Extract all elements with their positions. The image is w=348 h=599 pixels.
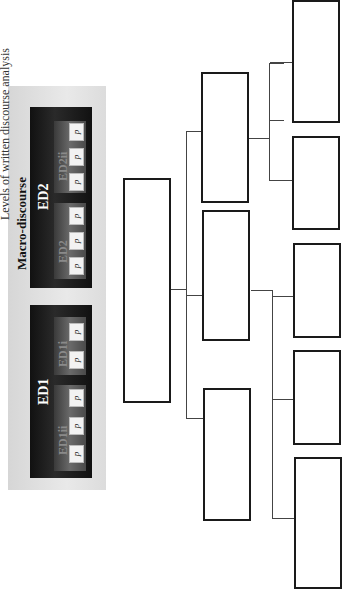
- tree-node-l2-e: [294, 457, 342, 589]
- connector-l1mid-spine-lower: [272, 459, 273, 519]
- paragraph-p: p: [69, 351, 84, 369]
- paragraph-p: p: [69, 323, 84, 341]
- paragraph-p: p: [69, 207, 84, 225]
- tree-node-root: [123, 178, 171, 403]
- connector-to-l2b: [270, 180, 292, 181]
- macro-discourse-label: Macro-discourse: [14, 177, 30, 270]
- tree-node-l1-top: [201, 72, 249, 203]
- connector-l1-middle: [187, 295, 202, 296]
- connector-level1-spine: [186, 131, 187, 419]
- connector-l1top-out: [249, 138, 269, 139]
- ed2-subunit-2: ED2ii p p p: [54, 121, 86, 193]
- paragraph-p: p: [69, 148, 84, 166]
- connector-l1-top: [186, 131, 201, 132]
- connector-l1top-spine-lower: [269, 138, 270, 181]
- ed2-block: ED2 ED2ii p p p ED2 p p p: [30, 107, 92, 288]
- connector-to-l2d: [272, 399, 293, 400]
- tree-node-l1-bottom: [203, 388, 251, 521]
- connector-root: [171, 289, 186, 290]
- ed1-block: ED1 ED1i p p ED1ii p p p: [30, 305, 92, 478]
- paragraph-p: p: [69, 123, 84, 141]
- ed1-label: ED1: [36, 379, 52, 405]
- tree-node-l2-d: [293, 350, 341, 445]
- connector-to-l2c: [272, 296, 293, 297]
- ed2-label: ED2: [36, 184, 52, 210]
- connector-l2b: [269, 120, 284, 121]
- connector-l1mid-spine: [272, 290, 273, 459]
- tree-node-l1-middle: [202, 210, 250, 341]
- paragraph-p: p: [69, 232, 84, 250]
- connector-l1-bottom: [187, 418, 203, 419]
- connector-to-l2e: [272, 518, 294, 519]
- tree-node-l2-b: [292, 136, 340, 230]
- paragraph-p: p: [69, 389, 84, 407]
- connector-l2a: [269, 63, 284, 64]
- ed1-subunit-1: ED1i p p: [54, 317, 86, 375]
- ed2-subunit-1: ED2 p p p: [54, 203, 86, 279]
- connector-to-l2a: [270, 62, 292, 63]
- paragraph-p: p: [69, 445, 84, 463]
- diagram-title: Levels of written discourse analysis: [0, 48, 13, 220]
- paragraph-p: p: [69, 417, 84, 435]
- tree-node-l2-c: [293, 243, 341, 338]
- paragraph-p: p: [69, 173, 84, 191]
- connector-l1top-spine-ext: [269, 63, 270, 138]
- tree-node-l2-a: [292, 0, 340, 123]
- paragraph-p: p: [69, 257, 84, 275]
- connector-l1mid-out: [251, 290, 272, 291]
- ed1-subunit-2: ED1ii p p p: [54, 385, 86, 471]
